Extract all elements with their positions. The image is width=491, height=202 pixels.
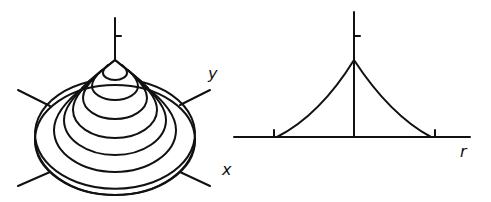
profile-curve-right <box>354 60 431 137</box>
surface-3d-plot: y x <box>18 18 232 195</box>
r-axis-label: r <box>460 142 468 161</box>
x-axis-label: x <box>221 160 232 179</box>
contour-ring-1 <box>35 85 195 195</box>
profile-curve-left <box>277 60 354 137</box>
y-axis-label: y <box>207 64 218 83</box>
radial-profile-plot: r <box>234 12 470 161</box>
axis-stub-upper-left <box>18 90 50 106</box>
axis-stub-lower-left <box>18 172 50 186</box>
y-axis-stub <box>180 90 210 105</box>
cone-flank-left <box>82 60 115 88</box>
cone-flank-right <box>115 60 148 88</box>
x-axis-stub <box>180 172 210 186</box>
diagram-canvas: y x r <box>0 0 491 202</box>
contour-rings <box>35 60 195 195</box>
